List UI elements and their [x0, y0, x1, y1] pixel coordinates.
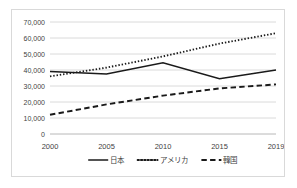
- plot-area: 010,00020,00030,00040,00050,00060,00070,…: [12, 10, 286, 178]
- y-tick-label: 40,000: [24, 67, 46, 74]
- chart-legend: 日本アメリカ韓国: [88, 155, 237, 165]
- y-tick-label: 0: [41, 131, 45, 138]
- legend-label: 韓国: [223, 155, 237, 165]
- data-series: [50, 33, 276, 115]
- x-tick-label: 2000: [42, 142, 59, 151]
- y-tick-label: 70,000: [24, 19, 46, 26]
- chart-container: 010,00020,00030,00040,00050,00060,00070,…: [11, 9, 285, 177]
- x-tick-label: 2019: [268, 142, 284, 151]
- x-axis-tick-labels: 20002005201020152019: [42, 142, 284, 151]
- y-tick-label: 60,000: [24, 35, 46, 42]
- series-line: [50, 84, 276, 114]
- legend-label: 日本: [110, 155, 125, 165]
- y-tick-label: 20,000: [24, 99, 46, 106]
- y-axis-tick-labels: 010,00020,00030,00040,00050,00060,00070,…: [24, 19, 46, 138]
- legend-label: アメリカ: [160, 156, 188, 165]
- x-tick-label: 2005: [98, 142, 115, 151]
- y-tick-label: 10,000: [24, 115, 46, 122]
- x-tick-label: 2015: [211, 142, 228, 151]
- x-tick-label: 2010: [155, 142, 172, 151]
- line-chart-svg: 010,00020,00030,00040,00050,00060,00070,…: [12, 10, 284, 176]
- y-tick-label: 50,000: [24, 51, 46, 58]
- y-tick-label: 30,000: [24, 83, 46, 90]
